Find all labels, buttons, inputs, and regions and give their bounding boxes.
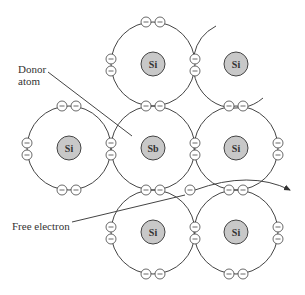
atom-symbol: Si [65,143,74,154]
donor-label-line2: atom [18,75,40,87]
lattice-diagram: SiSiSiSbSiSiSi Donor atom Free electron [0,0,305,295]
atom-symbol: Sb [147,143,159,154]
donor-label-line1: Donor [18,63,46,75]
atom-symbol: Si [149,227,158,238]
free-electron-pointer [72,195,185,222]
atom-symbol: Si [232,59,241,70]
free-electron-label: Free electron [12,220,70,232]
atom-symbol: Si [232,227,241,238]
atom-symbol: Si [232,143,241,154]
orbit-partial [194,26,216,55]
atom-symbol: Si [149,59,158,70]
